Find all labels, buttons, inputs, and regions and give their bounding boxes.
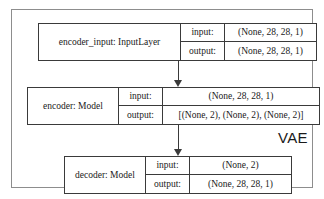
node-encoder-input-label: encoder_input: InputLayer bbox=[39, 24, 181, 60]
input-key-label: input: bbox=[181, 24, 225, 41]
node-encoder-input-output-shape: (None, 28, 28, 1) bbox=[225, 42, 316, 60]
arrow-head-icon bbox=[174, 149, 182, 156]
node-decoder-output-shape: (None, 28, 28, 1) bbox=[190, 175, 291, 193]
node-decoder-input-shape: (None, 2) bbox=[190, 157, 291, 174]
node-decoder-io: input: (None, 2) output: (None, 28, 28, … bbox=[146, 157, 291, 193]
output-key-label: output: bbox=[181, 42, 225, 60]
arrow-shaft bbox=[178, 61, 179, 80]
node-decoder[interactable]: decoder: Model input: (None, 2) output: … bbox=[64, 156, 292, 194]
output-key-label: output: bbox=[146, 175, 190, 193]
node-encoder-output-shape: [(None, 2), (None, 2), (None, 2)] bbox=[163, 106, 319, 124]
node-encoder-label: encoder: Model bbox=[28, 88, 119, 124]
node-encoder[interactable]: encoder: Model input: (None, 28, 28, 1) … bbox=[27, 87, 320, 125]
arrow-shaft bbox=[178, 125, 179, 149]
diagram-canvas: encoder_input: InputLayer input: (None, … bbox=[0, 0, 324, 199]
node-encoder-input-io: input: (None, 28, 28, 1) output: (None, … bbox=[181, 24, 316, 60]
node-decoder-label: decoder: Model bbox=[65, 157, 146, 193]
arrow-input-to-encoder bbox=[172, 61, 185, 87]
input-key-label: input: bbox=[146, 157, 190, 174]
node-decoder-output-row: output: (None, 28, 28, 1) bbox=[146, 175, 291, 193]
node-encoder-io: input: (None, 28, 28, 1) output: [(None,… bbox=[119, 88, 319, 124]
node-decoder-input-row: input: (None, 2) bbox=[146, 157, 291, 175]
node-encoder-input-input-shape: (None, 28, 28, 1) bbox=[225, 24, 316, 41]
node-encoder-input[interactable]: encoder_input: InputLayer input: (None, … bbox=[38, 23, 317, 61]
output-key-label: output: bbox=[119, 106, 163, 124]
node-encoder-input-output-row: output: (None, 28, 28, 1) bbox=[181, 42, 316, 60]
vae-container: encoder_input: InputLayer input: (None, … bbox=[11, 9, 313, 188]
node-encoder-input-shape: (None, 28, 28, 1) bbox=[163, 88, 319, 105]
arrow-head-icon bbox=[174, 80, 182, 87]
vae-container-label: VAE bbox=[252, 130, 308, 145]
node-encoder-output-row: output: [(None, 2), (None, 2), (None, 2)… bbox=[119, 106, 319, 124]
arrow-encoder-to-decoder bbox=[172, 125, 185, 156]
node-encoder-input-input-row: input: (None, 28, 28, 1) bbox=[181, 24, 316, 42]
node-encoder-input-row: input: (None, 28, 28, 1) bbox=[119, 88, 319, 106]
input-key-label: input: bbox=[119, 88, 163, 105]
